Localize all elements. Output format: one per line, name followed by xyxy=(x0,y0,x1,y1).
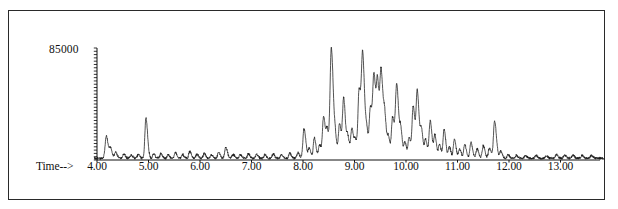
x-tick-label: 4.00 xyxy=(87,161,107,173)
chromatogram-figure: 85000 Time--> 4.005.006.007.008.009.0010… xyxy=(0,0,618,209)
x-tick-label: 8.00 xyxy=(293,161,313,173)
x-tick-label: 7.00 xyxy=(242,161,262,173)
x-tick-label: 12.00 xyxy=(496,161,521,173)
x-tick-label: 9.00 xyxy=(345,161,365,173)
x-axis-title: Time--> xyxy=(36,161,73,173)
x-tick-label: 5.00 xyxy=(139,161,159,173)
x-tick-label: 6.00 xyxy=(190,161,210,173)
x-tick-label: 10.00 xyxy=(393,161,418,173)
y-axis-label: 85000 xyxy=(49,44,79,56)
x-tick-label: 11.00 xyxy=(445,161,470,173)
x-tick-label: 13.00 xyxy=(548,161,573,173)
